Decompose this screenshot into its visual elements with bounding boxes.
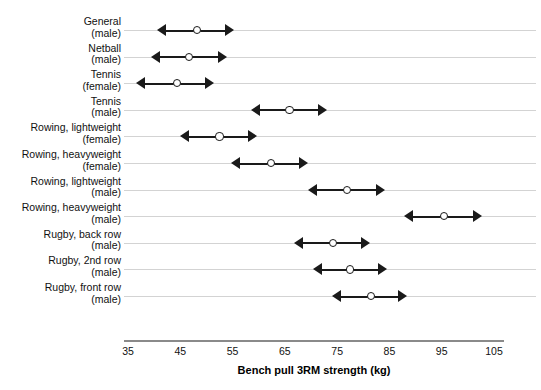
- plot-area: [124, 0, 536, 330]
- mean-marker: [367, 292, 375, 300]
- category-group-name: Rowing, heavyweight: [0, 149, 121, 161]
- range-marker: [152, 51, 226, 64]
- arrow-left-icon: [294, 237, 303, 249]
- arrow-right-icon: [473, 210, 482, 222]
- arrow-right-icon: [205, 77, 214, 89]
- mean-marker: [185, 53, 193, 61]
- x-axis-tick-label: 65: [265, 345, 305, 357]
- arrow-right-icon: [398, 290, 407, 302]
- category-group-name: Tennis: [0, 69, 121, 81]
- category-sex: (male): [0, 294, 121, 306]
- arrow-right-icon: [248, 130, 257, 142]
- category-label: Rugby, back row(male): [0, 229, 121, 252]
- range-marker: [309, 184, 384, 197]
- x-axis-tick-label: 85: [369, 345, 409, 357]
- category-label: Netball(male): [0, 43, 121, 66]
- category-label: Rowing, lightweight(male): [0, 176, 121, 199]
- arrow-right-icon: [361, 237, 370, 249]
- range-marker: [314, 263, 386, 276]
- x-axis-title: Bench pull 3RM strength (kg): [124, 364, 504, 376]
- x-axis-line: [124, 340, 504, 342]
- category-sex: (male): [0, 107, 121, 119]
- x-axis-tick-label: 55: [213, 345, 253, 357]
- arrow-left-icon: [313, 263, 322, 275]
- category-label: Rugby, 2nd row(male): [0, 255, 121, 278]
- arrow-right-icon: [318, 104, 327, 116]
- range-marker: [295, 237, 369, 250]
- category-label-column: General(male)Netball(male)Tennis(female)…: [0, 0, 121, 330]
- category-sex: (female): [0, 81, 121, 93]
- category-sex: (female): [0, 161, 121, 173]
- x-axis-tick-label: 95: [422, 345, 462, 357]
- arrow-left-icon: [308, 184, 317, 196]
- x-axis-tick-label: 75: [317, 345, 357, 357]
- arrow-right-icon: [225, 24, 234, 36]
- range-marker: [333, 290, 406, 303]
- gridline: [124, 163, 536, 164]
- category-label: Tennis(male): [0, 96, 121, 119]
- arrow-left-icon: [404, 210, 413, 222]
- mean-marker: [329, 239, 337, 247]
- range-marker: [137, 77, 213, 90]
- x-axis-tick-label: 45: [160, 345, 200, 357]
- arrow-left-icon: [231, 157, 240, 169]
- category-sex: (male): [0, 187, 121, 199]
- mean-marker: [193, 26, 201, 34]
- category-group-name: Rowing, heavyweight: [0, 202, 121, 214]
- arrow-left-icon: [157, 24, 166, 36]
- arrow-left-icon: [180, 130, 189, 142]
- gridline: [124, 110, 536, 111]
- mean-marker: [440, 212, 448, 220]
- arrow-right-icon: [376, 184, 385, 196]
- x-axis-tick-label: 105: [474, 345, 514, 357]
- category-label: General(male): [0, 16, 121, 39]
- mean-marker: [285, 106, 293, 114]
- range-marker: [232, 157, 307, 170]
- category-sex: (male): [0, 214, 121, 226]
- arrow-left-icon: [136, 77, 145, 89]
- arrow-right-icon: [378, 263, 387, 275]
- category-label: Tennis(female): [0, 69, 121, 92]
- mean-marker: [215, 132, 223, 140]
- arrow-right-icon: [218, 51, 227, 63]
- mean-marker: [267, 159, 275, 167]
- category-label: Rowing, heavyweight(male): [0, 202, 121, 225]
- category-group-name: General: [0, 16, 121, 28]
- range-marker: [405, 210, 481, 223]
- bench-pull-strength-chart: General(male)Netball(male)Tennis(female)…: [0, 0, 541, 390]
- arrow-left-icon: [251, 104, 260, 116]
- category-sex: (male): [0, 267, 121, 279]
- category-sex: (male): [0, 240, 121, 252]
- category-sex: (female): [0, 134, 121, 146]
- x-axis-tick-label: 35: [108, 345, 148, 357]
- mean-marker: [343, 186, 351, 194]
- mean-marker: [346, 265, 354, 273]
- category-sex: (male): [0, 28, 121, 40]
- gridline: [124, 296, 536, 297]
- category-group-name: Rugby, front row: [0, 282, 121, 294]
- arrow-left-icon: [151, 51, 160, 63]
- category-sex: (male): [0, 54, 121, 66]
- category-label: Rowing, lightweight(female): [0, 122, 121, 145]
- arrow-right-icon: [299, 157, 308, 169]
- range-marker: [252, 104, 325, 117]
- category-label: Rugby, front row(male): [0, 282, 121, 305]
- range-marker: [181, 130, 255, 143]
- mean-marker: [173, 79, 181, 87]
- category-label: Rowing, heavyweight(female): [0, 149, 121, 172]
- range-marker: [158, 24, 232, 37]
- arrow-left-icon: [332, 290, 341, 302]
